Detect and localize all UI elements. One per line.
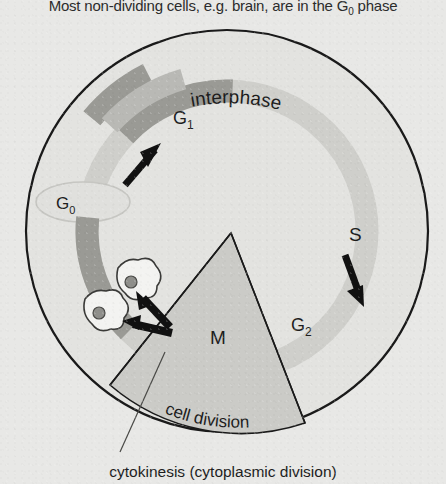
g0-oval [36, 182, 130, 222]
cell-cycle-figure: Most non-dividing cells, e.g. brain, are… [0, 0, 446, 484]
daughter-cell-upper-nucleus [125, 276, 137, 288]
cell-cycle-svg: interphase cell division G1 S G2 G0 M [0, 0, 446, 484]
figure-caption: cytokinesis (cytoplasmic division) [0, 463, 446, 481]
label-m: M [210, 327, 226, 348]
label-s: S [349, 224, 362, 245]
daughter-cell-lower-nucleus [93, 307, 105, 319]
